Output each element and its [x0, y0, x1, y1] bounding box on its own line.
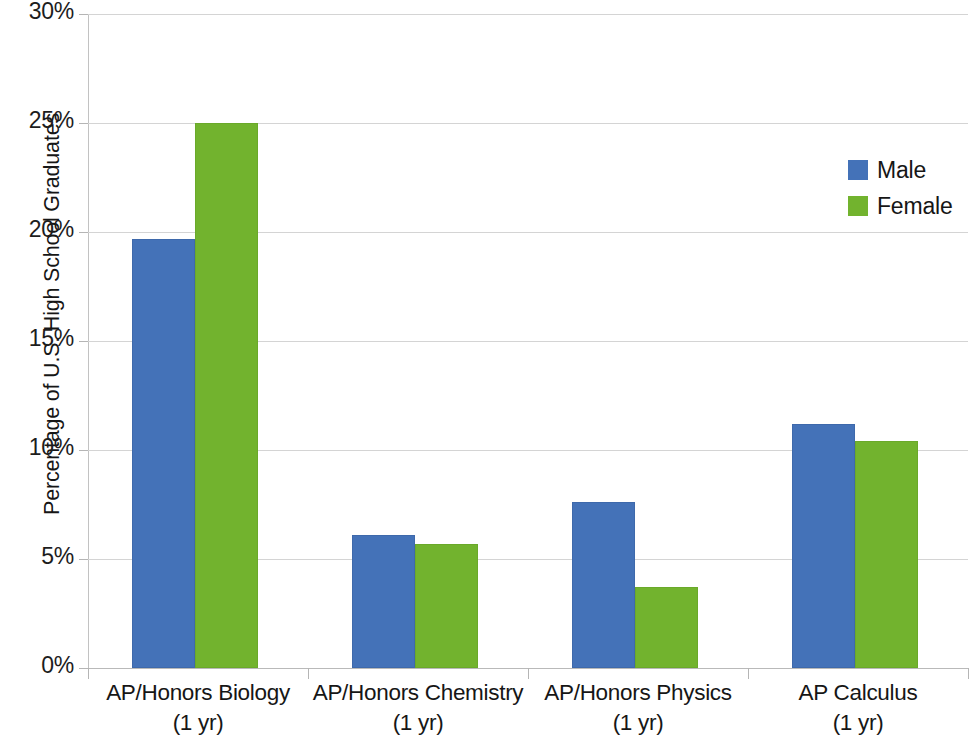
bar-male-0: [132, 239, 195, 668]
y-axis-tick: [79, 232, 88, 233]
legend-item-female[interactable]: Female: [848, 188, 973, 224]
y-axis-tick: [79, 123, 88, 124]
bar-female-1: [415, 544, 478, 668]
category-label-line1: AP/Honors Chemistry: [313, 680, 524, 705]
y-axis-tick-label: 10%: [0, 434, 74, 461]
y-axis-tick-label: 15%: [0, 325, 74, 352]
legend-item-male[interactable]: Male: [848, 152, 973, 188]
category-label-line1: AP/Honors Biology: [106, 680, 290, 705]
x-axis-category-label: AP Calculus(1 yr): [748, 678, 968, 738]
y-axis-tick-label: 5%: [0, 543, 74, 570]
x-axis-category-label: AP/Honors Physics(1 yr): [528, 678, 748, 738]
plot-area: [88, 14, 968, 668]
category-label-line2: (1 yr): [748, 708, 968, 738]
category-label-line2: (1 yr): [88, 708, 308, 738]
bar-female-0: [195, 123, 258, 668]
legend-swatch-female: [848, 196, 868, 216]
y-axis-tick-label: 25%: [0, 107, 74, 134]
y-axis-tick: [79, 559, 88, 560]
y-axis-tick: [79, 450, 88, 451]
y-axis-tick-label: 0%: [0, 652, 74, 679]
y-axis-tick-label: 20%: [0, 216, 74, 243]
gridline: [88, 14, 968, 15]
category-label-line2: (1 yr): [308, 708, 528, 738]
legend-label: Male: [877, 157, 926, 184]
bar-male-1: [352, 535, 415, 668]
bar-female-3: [855, 441, 918, 668]
category-label-line2: (1 yr): [528, 708, 748, 738]
y-axis-tick: [79, 341, 88, 342]
x-axis-category-label: AP/Honors Chemistry(1 yr): [308, 678, 528, 738]
legend-label: Female: [877, 193, 953, 220]
category-label-line1: AP Calculus: [799, 680, 918, 705]
x-axis-separator: [968, 668, 969, 679]
y-axis-tick: [79, 668, 88, 669]
bar-chart: Percentage of U.S. High School Graduates…: [0, 0, 975, 738]
y-axis-tick-label: 30%: [0, 0, 74, 25]
x-axis-category-label: AP/Honors Biology(1 yr): [88, 678, 308, 738]
y-axis-title: Percentage of U.S. High School Graduates: [35, 4, 69, 624]
y-axis-tick: [79, 14, 88, 15]
legend: MaleFemale: [848, 152, 973, 224]
bar-female-2: [635, 587, 698, 668]
bar-male-3: [792, 424, 855, 668]
bar-male-2: [572, 502, 635, 668]
legend-swatch-male: [848, 160, 868, 180]
category-label-line1: AP/Honors Physics: [544, 680, 731, 705]
